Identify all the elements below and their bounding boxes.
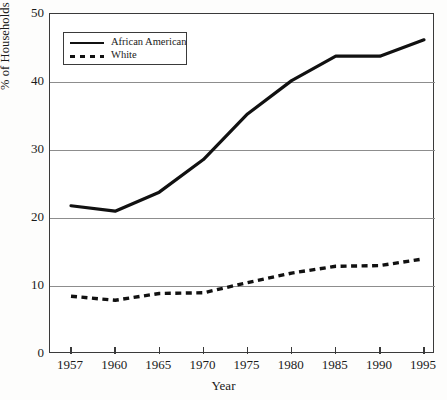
x-tick-label-1980: 1980 (278, 358, 304, 371)
y-tick-label-20: 20 (14, 210, 44, 223)
plot-canvas (50, 14, 435, 354)
x-tick-label-1965: 1965 (145, 358, 171, 371)
x-tick-label-1975: 1975 (234, 358, 260, 371)
x-tick-label-1970: 1970 (189, 358, 215, 371)
legend-line-dashed-icon (68, 50, 106, 62)
legend-label-white: White (106, 50, 137, 61)
series-line-white (71, 259, 424, 300)
x-tick-label-1990: 1990 (366, 358, 392, 371)
x-tick-label-1995: 1995 (410, 358, 436, 371)
x-tick-label-1960: 1960 (101, 358, 127, 371)
x-tick-label-1985: 1985 (322, 358, 348, 371)
chart-legend: African American White (63, 32, 187, 65)
legend-item-white: White (68, 49, 181, 62)
legend-label-african-american: African American (106, 37, 187, 48)
plot-area: African American White (49, 13, 434, 353)
y-tick-label-40: 40 (14, 74, 44, 87)
y-tick-label-50: 50 (14, 6, 44, 19)
y-tick-label-0: 0 (14, 346, 44, 359)
legend-line-solid-icon (68, 37, 106, 49)
series-line-african-american (71, 40, 424, 211)
x-axis-title: Year (0, 378, 447, 394)
y-axis-tick-labels: 01020304050 (10, 0, 44, 400)
x-axis-tick-labels: 195719601965197019751980198519901995 (49, 358, 434, 378)
chart-figure: % of Households Headed by Females 010203… (0, 0, 447, 400)
y-tick-label-30: 30 (14, 142, 44, 155)
y-tick-label-10: 10 (14, 278, 44, 291)
legend-item-african-american: African American (68, 36, 181, 49)
x-tick-label-1957: 1957 (57, 358, 83, 371)
